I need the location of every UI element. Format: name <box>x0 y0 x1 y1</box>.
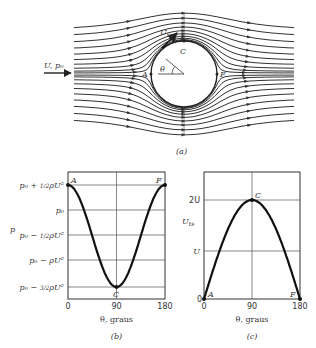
flow-arrow-icon <box>129 86 134 90</box>
chart-c-x-axis-label: θ, graus <box>236 315 269 324</box>
figure-root: A C F θ Uts U, p₀ (a) A C F p₀ <box>0 0 316 348</box>
point-a-label: A <box>141 70 148 79</box>
chart-c-y-axis-label: Uts <box>182 217 194 227</box>
flow-arrow-icon <box>181 25 185 28</box>
figure-c-velocity-chart: A C F 2U U 0 Uts 0 90 180 θ, graus (c) <box>182 172 308 341</box>
flow-arrow-icon <box>243 76 247 79</box>
flow-arrow-icon <box>181 34 185 37</box>
flow-arrow-icon <box>181 32 185 35</box>
x-tick-label: 90 <box>111 302 121 311</box>
flow-arrow-icon <box>182 29 186 32</box>
y-tick-label: p₀ + 1/2ρU² <box>20 181 64 190</box>
figure-a-caption: (a) <box>176 147 187 156</box>
x-tick-label: 0 <box>201 302 206 311</box>
flow-arrow-icon <box>133 70 137 73</box>
flow-arrow-icon <box>127 46 132 50</box>
point-c-marker <box>183 40 186 43</box>
flow-arrow-icon <box>244 65 248 68</box>
chart-b-label-a: A <box>70 176 77 185</box>
y-tick-label: p₀ <box>56 206 65 215</box>
flow-arrow-icon <box>245 60 249 64</box>
point-f-marker <box>216 73 219 76</box>
y-tick-label: 2U <box>189 196 200 205</box>
chart-b-x-axis-label: θ, graus <box>100 315 133 324</box>
flow-arrow-icon <box>182 17 186 20</box>
point-c-label: C <box>180 47 186 56</box>
theta-label: θ <box>160 65 165 74</box>
point-a-marker <box>150 73 153 76</box>
flow-arrow-icon <box>182 21 186 24</box>
flow-arrow-icon <box>242 71 246 74</box>
flow-arrow-icon <box>182 12 186 15</box>
x-tick-label: 180 <box>157 302 172 311</box>
chart-b-y-axis-label: p <box>10 225 15 234</box>
chart-c-point-a <box>202 297 206 301</box>
chart-b-point-f <box>163 183 167 187</box>
flow-arrow-icon <box>129 58 134 62</box>
flow-arrow-icon <box>243 69 247 72</box>
chart-c-label-f: F <box>289 290 296 299</box>
chart-c-label-a: A <box>207 290 214 299</box>
surface-velocity-label: Uts <box>160 28 172 38</box>
y-tick-label: p₀ − ρU² <box>29 256 64 265</box>
flow-arrow-icon <box>127 98 132 102</box>
flow-arrow-icon <box>242 74 246 77</box>
chart-c-label-c: C <box>255 191 261 200</box>
figure-c-caption: (c) <box>247 332 258 341</box>
figure-a-streamlines: A C F θ Uts U, p₀ (a) <box>44 12 294 156</box>
y-tick-label: p₀ − 3/2ρU² <box>20 283 64 292</box>
chart-b-y-ticks: p₀ + 1/2ρU² p₀ p₀ − 1/2ρU² p₀ − ρU² p₀ −… <box>20 181 65 292</box>
flow-arrow-icon <box>133 74 137 77</box>
flow-arrow-icon <box>182 133 186 136</box>
chart-b-point-a <box>66 183 70 187</box>
x-tick-label: 0 <box>65 302 70 311</box>
chart-b-point-c <box>115 285 119 289</box>
inflow-label: U, p₀ <box>44 61 64 70</box>
flow-arrow-icon <box>182 116 186 119</box>
flow-arrow-icon <box>181 119 185 122</box>
flow-arrow-icon <box>182 128 186 131</box>
figure-b-pressure-chart: A C F p₀ + 1/2ρU² p₀ p₀ − 1/2ρU² p₀ − ρU… <box>10 172 173 341</box>
chart-b-label-f: F <box>155 176 162 185</box>
x-tick-label: 180 <box>292 302 307 311</box>
point-f-label: F <box>219 70 226 79</box>
y-tick-label: p₀ − 1/2ρU² <box>20 231 64 240</box>
flow-arrow-icon <box>244 80 248 83</box>
chart-c-point-c <box>250 198 254 202</box>
chart-b-label-c: C <box>113 290 119 299</box>
chart-c-point-f <box>298 297 302 301</box>
figure-b-caption: (b) <box>111 332 122 341</box>
x-tick-label: 90 <box>247 302 257 311</box>
flow-arrow-icon <box>245 84 249 88</box>
flow-arrow-icon <box>182 123 186 126</box>
y-tick-label: U <box>193 247 200 256</box>
